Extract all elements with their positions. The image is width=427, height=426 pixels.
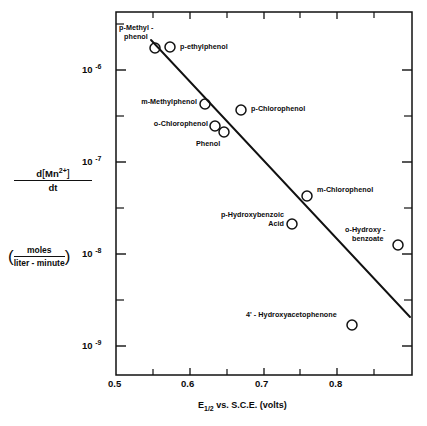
y-axis-title-denominator: dt [14,181,92,193]
units-numerator: moles [14,245,65,257]
y-axis-title-numerator: d[Mn2+] [14,165,92,181]
point-label-hydroxyacetophenone: 4' - Hydroxyacetophenone [246,311,337,320]
y-axis-units: ( moles liter - minute ) [8,245,70,268]
point-label-o-hydroxybenzoate-line2: benzoate [352,235,384,244]
x-tick-label-0.8: 0.8 [329,378,342,389]
y-tick-exp-1e-9: -9 [95,339,101,346]
y-tick-label-1e-8: 10 -8 [82,247,101,259]
units-fraction: moles liter - minute [14,245,65,268]
units-close-paren: ) [65,252,71,262]
x-axis-title-rest: vs. S.C.E. (volts) [216,400,287,410]
point-label-phenol: Phenol [196,140,220,149]
point-label-p-ethylphenol: p-ethylphenol [180,43,228,52]
y-axis-title-charge: 2+ [59,167,67,174]
y-tick-exp-1e-7: -7 [95,155,101,162]
units-denominator: liter - minute [14,257,65,268]
x-tick-label-0.6: 0.6 [181,378,194,389]
point-label-p-chlorophenol: p-Chlorophenol [251,105,305,114]
point-label-p-hydroxybenzoic-line2: Acid [186,220,284,229]
y-tick-label-1e-6: 10 -6 [82,63,101,75]
point-label-m-chlorophenol: m-Chlorophenol [317,186,373,195]
point-label-p-methylphenol-line2: phenol [124,33,148,42]
y-tick-exp-1e-8: -8 [95,247,101,254]
x-axis-title-subscript: 1/2 [204,405,214,412]
x-axis-title: E1/2 vs. S.C.E. (volts) [198,400,287,412]
x-tick-label-0.5: 0.5 [108,378,121,389]
point-label-m-methylphenol: m-Methylphenol [131,98,197,107]
point-label-o-chlorophenol: o-Chlorophenol [142,120,208,129]
y-axis-title-species: Mn [45,168,59,179]
x-tick-label-0.7: 0.7 [255,378,268,389]
right-bracket: ] [67,167,70,179]
y-tick-exp-1e-6: -6 [95,63,101,70]
y-tick-label-1e-9: 10 -9 [82,339,101,351]
y-axis-title: d[Mn2+] dt [14,165,92,193]
